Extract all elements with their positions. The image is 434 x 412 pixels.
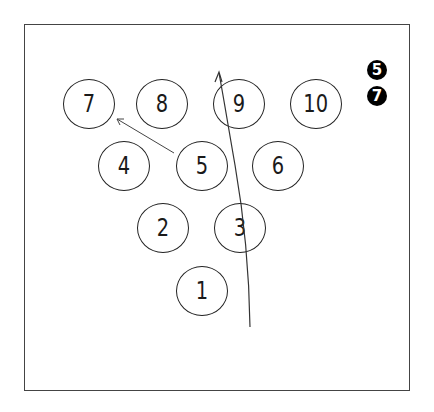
arrows-overlay <box>0 0 434 412</box>
deflection-arrow <box>117 119 174 153</box>
ball-path-arrow <box>215 72 250 327</box>
